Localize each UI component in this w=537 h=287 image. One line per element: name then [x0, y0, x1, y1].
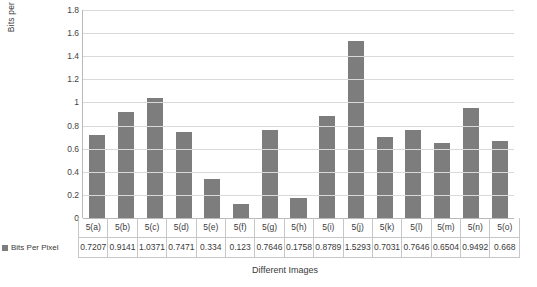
bar-5(a) [89, 135, 105, 218]
table-value-cell: 1.5293 [343, 238, 372, 258]
y-axis-tick-labels: 00.20.40.60.811.21.41.61.8 [56, 10, 82, 218]
bar-5(c) [147, 98, 163, 218]
table-value-cell: 0.334 [196, 238, 225, 258]
table-value-cell: 0.7471 [167, 238, 196, 258]
grid-line [83, 10, 514, 11]
table-value-cell: 0.123 [225, 238, 254, 258]
table-value-cell: 0.7646 [255, 238, 284, 258]
grid-line [83, 33, 514, 34]
bar-slot [399, 10, 428, 218]
table-row-categories: 5(a)5(b)5(c)5(d)5(e)5(f)5(g)5(h)5(i)5(j)… [0, 218, 520, 238]
table-category-cell: 5(b) [108, 218, 137, 238]
y-axis-tick-1.6: 1.6 [67, 28, 79, 38]
table-category-cell: 5(i) [314, 218, 343, 238]
legend-series-label: Bits Per Pixel [11, 243, 59, 252]
legend-color-swatch-icon [2, 245, 8, 251]
table-corner-cell [0, 218, 79, 238]
grid-line [83, 126, 514, 127]
bar-slot [112, 10, 141, 218]
bar-5(j) [348, 41, 364, 218]
grid-line [83, 172, 514, 173]
bar-slot [457, 10, 486, 218]
bar-slot [284, 10, 313, 218]
grid-line [83, 102, 514, 103]
bar-series [83, 10, 514, 218]
table-category-cell: 5(l) [402, 218, 431, 238]
grid-area [82, 10, 514, 218]
bar-5(f) [233, 204, 249, 218]
grid-line [83, 79, 514, 80]
bar-5(b) [118, 112, 134, 218]
table-value-cell: 0.9141 [108, 238, 137, 258]
grid-line [83, 56, 514, 57]
y-axis-tick-1.2: 1.2 [67, 74, 79, 84]
table-value-cell: 0.6504 [431, 238, 460, 258]
bar-5(d) [176, 132, 192, 218]
table-value-cell: 0.7207 [79, 238, 108, 258]
table-value-cell: 0.7031 [372, 238, 401, 258]
table-category-cell: 5(e) [196, 218, 225, 238]
bar-5(g) [262, 130, 278, 218]
table-value-cell: 0.7646 [402, 238, 431, 258]
table-category-cell: 5(a) [79, 218, 108, 238]
table-value-cell: 0.1758 [284, 238, 313, 258]
bar-slot [83, 10, 112, 218]
bar-slot [140, 10, 169, 218]
bar-5(n) [463, 108, 479, 218]
bar-slot [169, 10, 198, 218]
table-category-cell: 5(h) [284, 218, 313, 238]
bar-slot [370, 10, 399, 218]
y-axis-tick-1.8: 1.8 [67, 5, 79, 15]
y-axis-tick-1.4: 1.4 [67, 51, 79, 61]
grid-line [83, 195, 514, 196]
table-category-cell: 5(f) [225, 218, 254, 238]
bar-slot [485, 10, 514, 218]
bar-slot [313, 10, 342, 218]
table-category-cell: 5(o) [490, 218, 520, 238]
plot-area: 00.20.40.60.811.21.41.61.8 [56, 10, 514, 218]
bar-5(h) [290, 198, 306, 218]
table-value-cell: 0.668 [490, 238, 520, 258]
data-table-legend: 5(a)5(b)5(c)5(d)5(e)5(f)5(g)5(h)5(i)5(j)… [0, 218, 537, 264]
bar-slot [227, 10, 256, 218]
data-table: 5(a)5(b)5(c)5(d)5(e)5(f)5(g)5(h)5(i)5(j)… [0, 218, 520, 258]
table-value-cell: 0.9492 [461, 238, 490, 258]
y-axis-tick-0.8: 0.8 [67, 121, 79, 131]
y-axis-tick-0.4: 0.4 [67, 167, 79, 177]
y-axis-tick-1: 1 [74, 97, 79, 107]
table-category-cell: 5(n) [461, 218, 490, 238]
y-axis-tick-0.2: 0.2 [67, 190, 79, 200]
table-row-values: Bits Per Pixel 0.72070.91411.03710.74710… [0, 238, 520, 258]
table-category-cell: 5(j) [343, 218, 372, 238]
bar-5(e) [204, 179, 220, 218]
bar-slot [342, 10, 371, 218]
table-category-cell: 5(d) [167, 218, 196, 238]
y-axis-title: Bits per pixel Values [6, 0, 16, 62]
bar-5(m) [434, 143, 450, 218]
bar-chart: Bits per pixel Values 00.20.40.60.811.21… [0, 0, 537, 287]
table-category-cell: 5(m) [431, 218, 460, 238]
bar-slot [255, 10, 284, 218]
y-axis-tick-0.6: 0.6 [67, 144, 79, 154]
table-category-cell: 5(k) [372, 218, 401, 238]
table-category-cell: 5(c) [137, 218, 166, 238]
table-category-cell: 5(g) [255, 218, 284, 238]
bar-5(i) [319, 116, 335, 218]
bar-slot [428, 10, 457, 218]
bar-5(o) [492, 141, 508, 218]
bar-slot [198, 10, 227, 218]
table-value-cell: 1.0371 [137, 238, 166, 258]
legend-entry: Bits Per Pixel [0, 238, 79, 258]
bar-5(l) [405, 130, 421, 218]
x-axis-title: Different Images [56, 265, 514, 275]
table-value-cell: 0.8789 [314, 238, 343, 258]
grid-line [83, 149, 514, 150]
